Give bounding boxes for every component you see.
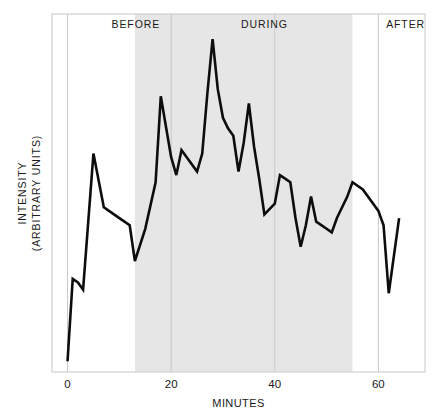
x-tick-label-0: 0 [64,378,70,390]
phase-label-during: DURING [241,18,288,30]
during-shaded-band [135,14,353,372]
line-chart: BEFORE DURING AFTER 0204060 MINUTES INTE… [0,0,438,418]
y-axis-title-line2: (ARBITRARY UNITS) [30,135,42,251]
x-tick-label-40: 40 [268,378,281,390]
x-axis-tick-labels: 0204060 [64,378,384,390]
phase-label-after: AFTER [386,18,425,30]
y-axis-title-group: INTENSITY (ARBITRARY UNITS) [16,135,42,251]
chart-container: BEFORE DURING AFTER 0204060 MINUTES INTE… [0,0,438,418]
y-axis-title-line1: INTENSITY [16,162,28,225]
x-tick-label-20: 20 [165,378,178,390]
x-axis-title: MINUTES [212,397,264,409]
x-tick-label-60: 60 [372,378,385,390]
phase-label-before: BEFORE [112,18,161,30]
